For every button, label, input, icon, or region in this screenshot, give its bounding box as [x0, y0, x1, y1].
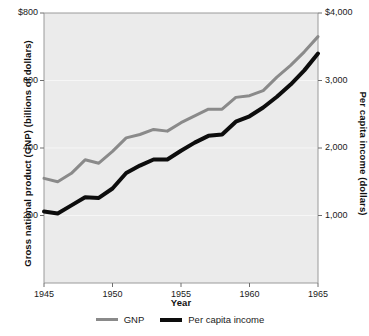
legend-label: GNP — [124, 314, 145, 325]
y-axis-right-tick-label: 1,000 — [325, 210, 365, 220]
x-axis-tick-label: 1965 — [298, 289, 338, 299]
x-axis-tick-label: 1945 — [24, 289, 64, 299]
legend-label: Per capita income — [188, 314, 264, 325]
legend-swatch-line-icon — [160, 318, 182, 322]
y-axis-right-tick-label: 2,000 — [325, 142, 365, 152]
chart-legend: GNPPer capita income — [0, 314, 360, 325]
y-axis-right-title: Per capita income (dollars) — [358, 29, 369, 279]
y-axis-left-tick-label: 200 — [2, 210, 38, 220]
legend-swatch-line-icon — [96, 318, 118, 321]
x-axis-tick-label: 1955 — [161, 289, 201, 299]
y-axis-left-tick-label: 400 — [2, 142, 38, 152]
y-axis-right-tick-label: 3,000 — [325, 75, 365, 85]
x-axis-tick-label: 1960 — [230, 289, 270, 299]
y-axis-left-title: Gross national product (GNP) (billions o… — [22, 29, 33, 279]
y-axis-left-tick-label: $800 — [2, 7, 38, 17]
x-axis-tick-label: 1950 — [93, 289, 133, 299]
legend-item[interactable]: GNP — [96, 314, 145, 325]
y-axis-right-tick-label: $4,000 — [325, 7, 365, 17]
y-axis-left-tick-label: 600 — [2, 75, 38, 85]
legend-item[interactable]: Per capita income — [160, 314, 264, 325]
